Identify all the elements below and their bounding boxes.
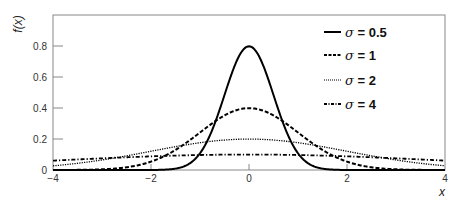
legend-label: σ = 4 <box>345 97 377 112</box>
x-axis-label: x <box>438 185 446 199</box>
y-axis-ticks <box>53 46 63 139</box>
legend-label: σ = 0.5 <box>345 25 387 40</box>
series-sigma-2-line <box>53 139 445 166</box>
x-tick-label-1: −2 <box>145 173 157 184</box>
curves <box>53 46 445 170</box>
y-tick-label-1: 0.2 <box>33 134 47 145</box>
legend-item-sigma-4: σ = 4 <box>324 97 377 112</box>
series-sigma-1-line <box>53 108 445 170</box>
x-tick-label-0: −4 <box>47 173 59 184</box>
chart-canvas: 0 0.2 0.4 0.6 0.8 −4 −2 0 2 4 x f(x) σ =… <box>0 0 460 203</box>
legend-item-sigma-1: σ = 1 <box>324 48 376 63</box>
y-tick-label-4: 0.8 <box>33 41 47 52</box>
legend-item-sigma-0.5: σ = 0.5 <box>324 25 387 40</box>
y-tick-label-3: 0.6 <box>33 72 47 83</box>
y-tick-label-2: 0.4 <box>33 103 47 114</box>
legend-item-sigma-2: σ = 2 <box>324 73 376 88</box>
series-sigma-4-line <box>53 155 445 161</box>
legend: σ = 0.5 σ = 1 σ = 2 σ = 4 <box>324 25 387 112</box>
legend-label: σ = 1 <box>345 48 376 63</box>
x-tick-label-4: 4 <box>442 173 448 184</box>
y-axis-label: f(x) <box>11 15 25 32</box>
x-tick-label-3: 2 <box>344 173 350 184</box>
x-tick-label-2: 0 <box>246 173 252 184</box>
legend-label: σ = 2 <box>345 73 376 88</box>
